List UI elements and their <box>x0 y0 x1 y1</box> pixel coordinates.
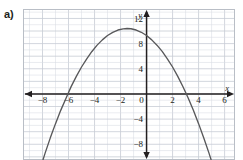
x-tick-label: −8 <box>38 95 48 105</box>
x-tick-label: 0 <box>139 95 144 105</box>
x-tick-label: −4 <box>90 95 100 105</box>
part-label: a) <box>4 8 13 20</box>
cartesian-graph: −8−6−4−202461284−4−8 yx <box>23 9 235 160</box>
graph-plot-area: −8−6−4−202461284−4−8 yx <box>23 9 235 160</box>
x-tick-label: 6 <box>222 95 227 105</box>
y-tick-label: 4 <box>139 64 144 74</box>
y-tick-label: 8 <box>139 39 144 49</box>
x-tick-label: 4 <box>196 95 201 105</box>
x-tick-label: 2 <box>170 95 175 105</box>
x-tick-label: −2 <box>116 95 126 105</box>
figure-container: a) −8−6−4−202461284−4−8 yx <box>0 0 243 160</box>
x-axis-label: x <box>224 83 229 93</box>
y-axis-label: y <box>137 10 142 20</box>
y-tick-label: −8 <box>133 139 143 149</box>
y-tick-label: −4 <box>133 114 143 124</box>
